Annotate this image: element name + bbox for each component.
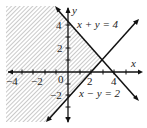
x-tick-label-neg2: −2 xyxy=(31,75,43,87)
x-tick-label-neg4: −4 xyxy=(6,75,18,87)
x-tick-label-2: 2 xyxy=(87,75,93,87)
inequality-graph: x y 0 −4 −2 2 4 4 2 −2 x + y = 4 x − y =… xyxy=(0,0,147,128)
origin-label: 0 xyxy=(58,73,64,85)
equation-label-x-minus-y: x − y = 2 xyxy=(78,87,121,99)
y-axis-label: y xyxy=(71,4,77,16)
y-tick-label-4: 4 xyxy=(56,19,62,31)
equation-label-x-plus-y: x + y = 4 xyxy=(76,18,119,30)
y-tick-label-neg2: −2 xyxy=(50,89,62,101)
x-tick-label-4: 4 xyxy=(111,75,117,87)
x-axis-label: x xyxy=(130,57,136,69)
y-tick-label-2: 2 xyxy=(57,42,63,54)
